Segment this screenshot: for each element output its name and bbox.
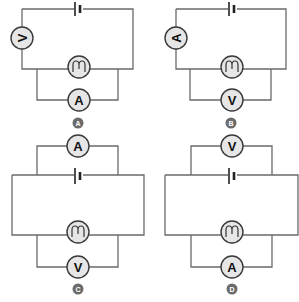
svg-text:A: A [169, 33, 184, 43]
ammeter-icon: A [68, 89, 90, 111]
lamp-icon [221, 56, 243, 78]
voltmeter-icon: V [221, 89, 243, 111]
voltmeter-icon: V [11, 27, 33, 49]
ammeter-icon: A [221, 256, 243, 278]
voltmeter-icon: V [67, 256, 89, 278]
circuit-b: A V B [165, 2, 286, 129]
battery-icon [229, 168, 234, 184]
svg-text:V: V [74, 260, 83, 275]
circuit-c: A V C [12, 135, 144, 295]
circuit-label-badge: A [73, 118, 84, 129]
battery-icon [75, 168, 80, 184]
svg-text:B: B [228, 120, 233, 127]
lamp-icon [67, 221, 89, 243]
lamp-icon [68, 56, 90, 78]
circuit-d: V A D [165, 135, 298, 295]
voltmeter-icon: V [221, 135, 243, 157]
svg-text:A: A [75, 120, 80, 127]
svg-text:V: V [15, 33, 30, 42]
circuit-label-badge: B [226, 118, 237, 129]
ammeter-icon: A [67, 135, 89, 157]
circuit-a: V A A [11, 2, 133, 129]
ammeter-icon: A [165, 27, 187, 49]
circuit-diagram-set: V A A A [0, 0, 299, 302]
svg-text:V: V [228, 93, 237, 108]
battery-icon [75, 2, 80, 16]
svg-text:A: A [74, 93, 84, 108]
battery-icon [229, 2, 234, 16]
circuit-label-badge: C [73, 284, 84, 295]
svg-text:C: C [75, 286, 80, 293]
svg-text:V: V [228, 139, 237, 154]
circuit-label-badge: D [227, 284, 238, 295]
svg-text:D: D [229, 286, 234, 293]
lamp-icon [221, 221, 243, 243]
svg-text:A: A [227, 260, 237, 275]
svg-text:A: A [73, 139, 83, 154]
